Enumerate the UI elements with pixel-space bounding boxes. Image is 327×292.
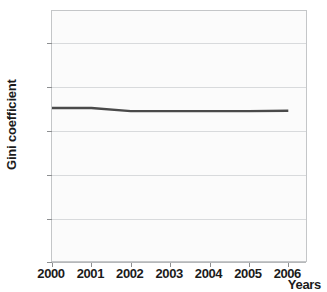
data-series-layer xyxy=(52,11,308,263)
x-tick-label-2001: 2001 xyxy=(77,266,104,281)
gini-coefficient-line xyxy=(52,108,288,111)
plot-area xyxy=(51,10,307,262)
x-tick-label-2004: 2004 xyxy=(195,266,222,281)
x-tick-label-2002: 2002 xyxy=(116,266,143,281)
gini-coefficient-line-chart: 00.10.20.30.40.5 20002001200220032004200… xyxy=(0,0,327,292)
x-axis-title: Years xyxy=(288,277,321,292)
x-tick-label-2003: 2003 xyxy=(155,266,182,281)
x-tick-label-2005: 2005 xyxy=(234,266,261,281)
y-axis-title: Gini coefficient xyxy=(4,79,19,170)
x-tick-label-2000: 2000 xyxy=(37,266,64,281)
